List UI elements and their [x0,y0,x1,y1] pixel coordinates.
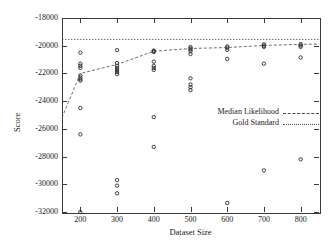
y-axis-title: Score [12,113,22,132]
data-point [262,62,265,65]
data-point [226,201,229,204]
legend-label: Gold Standard [233,119,279,127]
data-point [115,48,118,51]
data-point [115,184,118,187]
scatter-chart: -18000-20000-22000-24000-26000-28000-300… [0,0,332,251]
data-point [115,178,118,181]
data-point [79,106,82,109]
data-point [79,210,82,213]
data-point [226,57,229,60]
x-axis-title: Dataset Size [161,227,221,237]
data-point [115,192,118,195]
data-point [189,77,192,80]
legend-entry: Gold Standard [190,119,319,130]
data-point [299,158,302,161]
chart-legend: Median LikelihoodGold Standard [190,108,319,130]
data-point [79,133,82,136]
data-point [152,115,155,118]
legend-line-sample [283,124,319,125]
legend-label: Median Likelihood [217,108,279,116]
data-point [262,169,265,172]
data-point [152,145,155,148]
median-likelihood-line [62,44,319,118]
legend-line-sample [283,113,319,114]
data-point [79,51,82,54]
data-point [152,60,155,63]
data-point [299,56,302,59]
